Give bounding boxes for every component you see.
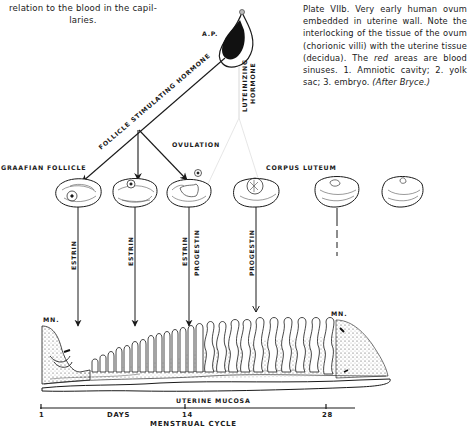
ovary-graafian-follicle-icon	[56, 179, 101, 207]
lh-label-line1: LUTEINIZING	[241, 59, 248, 112]
mn-right-label: MN.	[331, 310, 347, 317]
arrow-3-label-estrin: ESTRIN	[181, 236, 188, 266]
axis-tick-1: 1	[39, 411, 45, 419]
menstrual-cycle-axis	[40, 404, 355, 409]
arrow-4-label-progestin: PROGESTIN	[248, 229, 255, 276]
ovary-regressing-corpus-luteum-icon	[315, 177, 359, 208]
arrow-3-label-progestin: PROGESTIN	[193, 229, 200, 276]
mn-left-label: MN.	[43, 316, 59, 323]
ovary-maturing-follicle-icon	[113, 179, 157, 208]
ovary-ovulation-icon	[167, 170, 211, 208]
ovary-corpus-albicans-icon	[382, 177, 423, 208]
fsh-line	[82, 58, 225, 182]
axis-tick-28: 28	[322, 411, 333, 419]
arrow-1-label: ESTRIN	[70, 240, 77, 270]
axis-days-label: DAYS	[107, 411, 130, 419]
ovary-corpus-luteum-icon	[234, 178, 279, 207]
ovulation-label: OVULATION	[172, 141, 220, 148]
lh-label-line2: HORMONE	[249, 62, 256, 104]
hormone-arrows	[78, 207, 337, 326]
arrow-2-label: ESTRIN	[127, 236, 134, 266]
pituitary-label: A.P.	[202, 30, 218, 37]
axis-title: MENSTRUAL CYCLE	[150, 420, 237, 428]
lh-branch-1	[208, 118, 239, 184]
fsh-branch-arrow-3	[139, 130, 187, 180]
menstrual-cycle-diagram: A.P. FOLLICLE STIMULATING HORMONE LUTEIN…	[0, 0, 468, 428]
graafian-follicle-label: GRAAFIAN FOLLICLE	[1, 164, 86, 171]
uterine-mucosa-label: UTERINE MUCOSA	[176, 397, 251, 404]
axis-tick-14: 14	[182, 411, 193, 419]
corpus-luteum-label: CORPUS LUTEUM	[266, 164, 337, 171]
fsh-label: FOLLICLE STIMULATING HORMONE	[97, 52, 211, 151]
lh-branch-2	[239, 118, 258, 178]
uterine-mucosa-illustration	[42, 318, 390, 392]
ovary-row	[56, 170, 423, 208]
